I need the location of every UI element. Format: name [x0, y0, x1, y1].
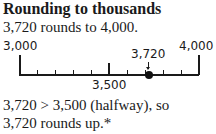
minor-tick: [181, 70, 182, 75]
point-label: 3,720: [131, 47, 165, 61]
heading: Rounding to thousands: [3, 0, 161, 18]
end-label: 4,000: [179, 39, 213, 53]
point-marker: [145, 71, 153, 79]
explanation-line-2: 3,720 rounds up.*: [3, 115, 111, 132]
midpoint-label: 3,500: [92, 78, 126, 92]
minor-tick: [37, 70, 38, 75]
rounding-statement: 3,720 rounds to 4,000.: [3, 19, 138, 36]
explanation-line-1: 3,720 > 3,500 (halfway), so: [3, 97, 169, 114]
arrow-down-icon: [146, 67, 150, 70]
start-tick: [19, 55, 21, 75]
minor-tick: [73, 70, 74, 75]
minor-tick: [91, 70, 92, 75]
minor-tick: [127, 70, 128, 75]
minor-tick: [55, 70, 56, 75]
end-tick: [198, 55, 200, 75]
start-label: 3,000: [3, 39, 37, 53]
minor-tick: [163, 70, 164, 75]
midpoint-tick: [108, 63, 110, 75]
